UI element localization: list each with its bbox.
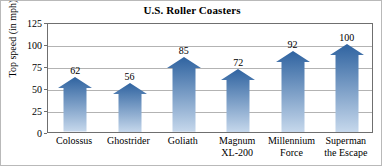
bar-arrow-shape (276, 51, 310, 132)
x-axis-label: Colossus (47, 135, 101, 147)
bar-colossus: 62 (58, 77, 92, 132)
x-axis-label-line: Millennium (264, 135, 318, 147)
bar-value-label: 100 (339, 32, 354, 43)
x-axis-labels: ColossusGhostriderGoliathMagnumXL-200Mil… (47, 135, 373, 166)
bar-series: 6256857292100 (48, 24, 372, 132)
bar-value-label: 85 (179, 45, 189, 56)
y-tick-label-125: 125 (27, 18, 42, 29)
chart-title: U.S. Roller Coasters (1, 4, 382, 16)
x-axis-label-line: Magnum (210, 135, 264, 147)
x-axis-label: Goliath (156, 135, 210, 147)
plot-area: 6256857292100 (47, 23, 373, 133)
y-tick-label-25: 25 (32, 106, 42, 117)
bar-superman-the-escape: 100 (330, 44, 364, 132)
x-axis-label-line: Colossus (47, 135, 101, 147)
x-axis-label: MagnumXL-200 (210, 135, 264, 158)
bar-ghostrider: 56 (113, 83, 147, 132)
x-axis-label-line: the Escape (319, 147, 373, 159)
x-axis-label-line: XL-200 (210, 147, 264, 159)
y-tick-label-0: 0 (37, 128, 42, 139)
x-axis-label: Ghostrider (101, 135, 155, 147)
bar-arrow-shape (113, 83, 147, 132)
x-axis-label-line: Ghostrider (101, 135, 155, 147)
y-tick-mark-0 (44, 133, 47, 134)
y-tick-label-100: 100 (27, 40, 42, 51)
bar-magnum-xl-200: 72 (221, 69, 255, 132)
bar-value-label: 62 (70, 65, 80, 76)
bar-arrow-shape (167, 57, 201, 132)
bar-millennium-force: 92 (276, 51, 310, 132)
bar-arrow-shape (330, 44, 364, 132)
bar-value-label: 56 (125, 71, 135, 82)
x-axis-label-line: Superman (319, 135, 373, 147)
chart-container: U.S. Roller Coasters Top speed (in mph) … (0, 0, 382, 166)
bar-goliath: 85 (167, 57, 201, 132)
bar-value-label: 72 (233, 57, 243, 68)
x-axis-label: Supermanthe Escape (319, 135, 373, 158)
y-tick-label-50: 50 (32, 84, 42, 95)
y-tick-label-75: 75 (32, 62, 42, 73)
bar-arrow-shape (221, 69, 255, 132)
bar-value-label: 92 (288, 39, 298, 50)
x-axis-label-line: Goliath (156, 135, 210, 147)
bar-arrow-shape (58, 77, 92, 132)
y-axis-ticks: 0255075100125 (1, 1, 47, 166)
x-axis-label: MillenniumForce (264, 135, 318, 158)
x-axis-label-line: Force (264, 147, 318, 159)
